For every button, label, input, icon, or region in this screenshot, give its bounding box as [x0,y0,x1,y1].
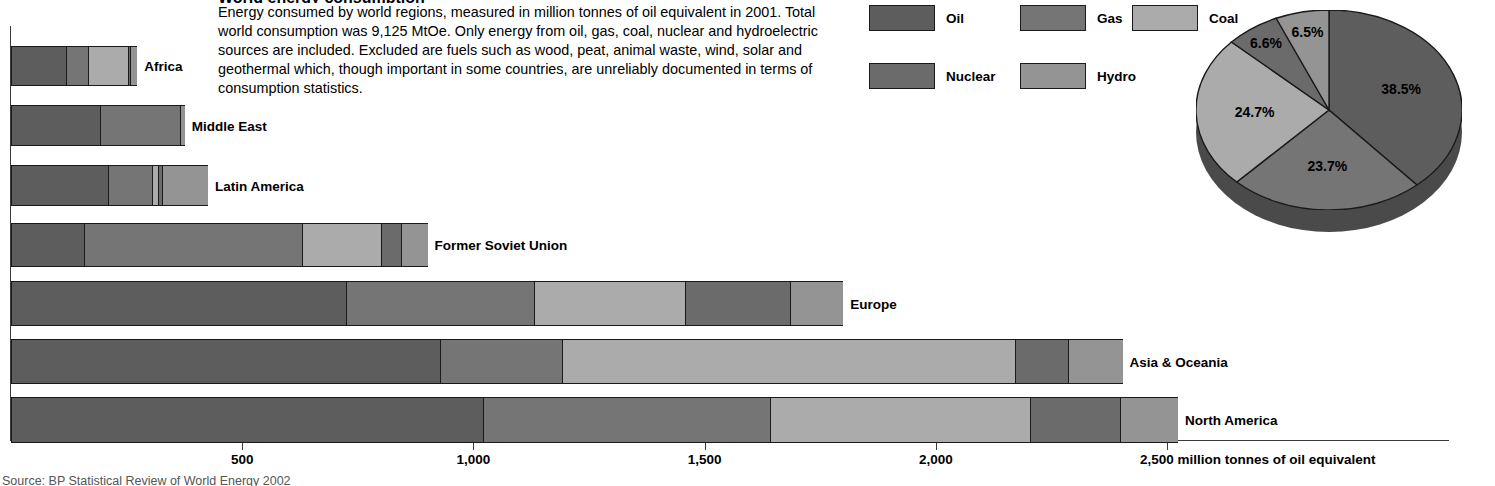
bar-row-north-america: North America [11,397,1178,443]
bar-segment-gas [440,339,562,384]
pie-label-nuclear: 6.6% [1250,35,1282,51]
bar-segment-gas [84,223,302,267]
bar-segment-hydro [180,105,185,146]
bar-label-africa: Africa [144,59,182,74]
bar-segment-hydro [130,46,137,86]
bar-segment-oil [11,223,84,267]
bar-row-africa: Africa [11,46,137,86]
pie-label-coal: 24.7% [1235,104,1275,120]
legend-swatch-gas [1020,5,1086,31]
bar-segment-nuclear [685,281,790,326]
x-tick-label-2500: 2,500 million tonnes of oil equivalent [1140,452,1376,467]
bar-segment-oil [11,46,66,86]
bar-row-asia-oceania: Asia & Oceania [11,339,1123,384]
bar-row-former-soviet-union: Former Soviet Union [11,223,428,267]
bar-segment-gas [66,46,88,86]
bar-segment-oil [11,105,100,146]
bar-row-latin-america: Latin America [11,165,208,206]
bar-segment-oil [11,339,440,384]
bar-segment-gas [346,281,534,326]
bar-label-former-soviet-union: Former Soviet Union [435,238,568,253]
energy-consumption-infographic: World energy consumption Energy consumed… [0,0,1495,486]
bar-label-north-america: North America [1185,413,1278,428]
x-tick-label-2000: 2,000 [919,452,953,467]
fuel-share-pie-chart: 38.5%23.7%24.7%6.6%6.5% [1196,8,1466,248]
legend-item-oil: Oil [869,5,964,31]
x-tick-label-500: 500 [231,452,254,467]
pie-label-gas: 23.7% [1308,158,1348,174]
bar-label-europe: Europe [850,296,897,311]
bar-row-europe: Europe [11,281,843,326]
bar-segment-hydro [1068,339,1122,384]
bar-label-asia-oceania: Asia & Oceania [1130,354,1228,369]
bar-segment-coal [88,46,128,86]
legend-swatch-nuclear [869,63,935,89]
bar-segment-nuclear [381,223,401,267]
bar-segment-coal [534,281,685,326]
legend-label-hydro: Hydro [1097,69,1136,84]
bar-row-middle-east: Middle East [11,105,185,146]
bar-label-middle-east: Middle East [192,118,267,133]
bar-segment-oil [11,397,483,443]
legend-item-nuclear: Nuclear [869,63,996,89]
bar-segment-hydro [790,281,843,326]
bar-label-latin-america: Latin America [215,178,304,193]
bar-segment-oil [11,281,346,326]
bar-segment-coal [770,397,1030,443]
fuel-legend: OilGasCoalNuclearHydro [869,5,1199,89]
legend-label-nuclear: Nuclear [946,69,996,84]
bar-segment-gas [100,105,180,146]
legend-swatch-oil [869,5,935,31]
bar-segment-hydro [401,223,428,267]
bar-segment-hydro [162,165,208,206]
legend-swatch-hydro [1020,63,1086,89]
bar-segment-hydro [1120,397,1178,443]
pie-label-hydro: 6.5% [1291,24,1323,40]
bar-segment-oil [11,165,108,206]
chart-description: Energy consumed by world regions, measur… [218,3,843,98]
legend-swatch-coal [1132,5,1198,31]
bar-segment-gas [108,165,152,206]
bar-segment-coal [562,339,1015,384]
x-tick-label-1500: 1,500 [688,452,722,467]
bar-segment-nuclear [1030,397,1120,443]
legend-item-hydro: Hydro [1020,63,1136,89]
source-note: Source: BP Statistical Review of World E… [2,474,291,486]
bar-segment-gas [483,397,770,443]
legend-label-oil: Oil [946,11,964,26]
legend-item-gas: Gas [1020,5,1123,31]
x-tick-label-1000: 1,000 [456,452,490,467]
legend-label-gas: Gas [1097,11,1123,26]
pie-label-oil: 38.5% [1381,81,1421,97]
bar-segment-coal [302,223,381,267]
bar-segment-nuclear [1015,339,1068,384]
